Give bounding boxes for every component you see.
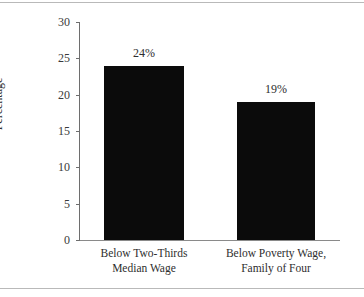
y-axis-tick-mark (76, 22, 80, 23)
plot-area: 051015202530 24%19% Below Two-Thirds Med… (80, 22, 340, 240)
y-axis-tick-mark (76, 240, 80, 241)
bar: 19% (237, 102, 315, 240)
y-axis-tick-label: 30 (30, 13, 70, 31)
y-axis-tick-mark (76, 95, 80, 96)
y-axis-tick-mark (76, 131, 80, 132)
figure-bottom-rule (0, 288, 364, 289)
bar-chart-figure: Percentage 051015202530 24%19% Below Two… (0, 0, 364, 297)
bar-value-label: 19% (265, 82, 287, 97)
y-axis-tick-label: 10 (30, 158, 70, 176)
figure-top-rule (0, 2, 364, 3)
y-axis-tick-mark (76, 204, 80, 205)
y-axis-tick-label: 0 (30, 231, 70, 249)
bar-value-label: 24% (133, 46, 155, 61)
x-axis-line (79, 240, 340, 241)
x-axis-category-label: Below Two-Thirds Median Wage (74, 246, 214, 276)
y-axis-title: Percentage (0, 44, 6, 164)
y-axis-tick-mark (76, 58, 80, 59)
y-axis-tick-label: 25 (30, 49, 70, 67)
x-axis-category-label: Below Poverty Wage, Family of Four (206, 246, 346, 276)
y-axis-tick-label: 20 (30, 86, 70, 104)
y-axis-tick-mark (76, 167, 80, 168)
bar: 24% (104, 66, 184, 240)
y-axis-tick-label: 15 (30, 122, 70, 140)
y-axis-tick-label: 5 (30, 195, 70, 213)
